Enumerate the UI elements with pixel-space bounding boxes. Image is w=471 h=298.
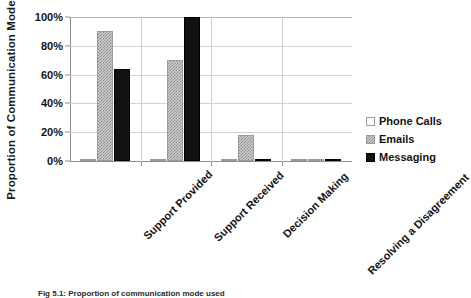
category-separator (141, 17, 142, 162)
legend-swatch-icon-phone-calls (366, 117, 375, 126)
bar-emails (97, 31, 113, 161)
legend-item-phone-calls[interactable]: Phone Calls (366, 112, 462, 130)
bar-phone-calls (291, 159, 307, 161)
x-axis-label: Support Received (212, 169, 287, 244)
y-tick-label: 40% (41, 97, 70, 109)
x-tick-mark (141, 162, 142, 166)
y-tick-label: 0% (47, 155, 70, 167)
bar-emails (308, 159, 324, 161)
bar-messaging (184, 17, 200, 161)
legend-swatch-icon-emails (366, 135, 375, 144)
category-separator (211, 17, 212, 162)
x-axis-label: Resolving a Disagreement (365, 171, 471, 277)
y-axis-line (70, 17, 71, 162)
legend-label-emails: Emails (379, 133, 414, 145)
bar-emails (167, 60, 183, 161)
bar-phone-calls (80, 159, 96, 161)
legend-item-messaging[interactable]: Messaging (366, 148, 462, 166)
y-tick-label: 100% (35, 11, 70, 23)
figure-caption: Fig 5.1: Proportion of communication mod… (38, 289, 225, 298)
bar-messaging (255, 159, 271, 161)
x-axis-label: Decision Making (280, 170, 350, 240)
category-separator (282, 17, 283, 162)
plot-area: 0%20%40%60%80%100% (70, 17, 352, 162)
legend-swatch-icon-messaging (366, 153, 375, 162)
y-tick-label: 80% (41, 40, 70, 52)
legend-label-messaging: Messaging (379, 151, 436, 163)
bar-emails (238, 135, 254, 161)
x-tick-mark (282, 162, 283, 166)
x-axis-label: Support Provided (141, 168, 215, 242)
bar-phone-calls (221, 159, 237, 161)
y-tick-label: 20% (41, 126, 70, 138)
bar-phone-calls (150, 159, 166, 161)
bar-messaging (114, 69, 130, 161)
legend-item-emails[interactable]: Emails (366, 130, 462, 148)
x-tick-mark (211, 162, 212, 166)
y-tick-label: 60% (41, 69, 70, 81)
bar-messaging (325, 159, 341, 161)
y-axis-title: Proportion of Communication Mode (0, 0, 22, 200)
legend-label-phone-calls: Phone Calls (379, 115, 442, 127)
legend: Phone Calls Emails Messaging (366, 112, 462, 166)
